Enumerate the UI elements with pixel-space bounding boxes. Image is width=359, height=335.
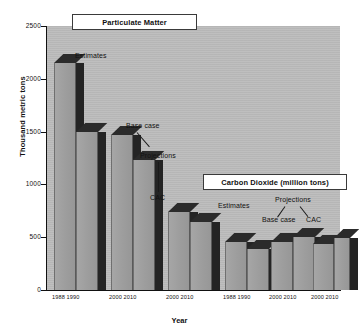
- x-tick-group-5: 2000 2010: [311, 294, 338, 300]
- annotation-cac-right: CAC: [306, 216, 321, 223]
- x-tick-group-3: 1988 1990: [223, 294, 250, 300]
- bar-co2-estimates-1990: [247, 0, 269, 290]
- y-tick-label-1000: 1000: [11, 180, 41, 187]
- annotation-projections-left: Projections: [140, 152, 176, 159]
- panel-title-carbon-dioxide: Carbon Dioxide (million tons): [203, 174, 347, 190]
- bar-co2-cac-2010: [334, 0, 350, 290]
- bar-pm-cac-2000: [168, 0, 190, 290]
- bar-pm-estimates-1990: [76, 0, 98, 290]
- bar-pm-basecase-2010: [133, 0, 155, 290]
- bar-pm-basecase-2000: [111, 0, 133, 290]
- annotation-cac-left: CAC: [150, 194, 165, 201]
- x-axis-line: [46, 290, 341, 291]
- bar-co2-estimates-1988: [225, 0, 247, 290]
- bar-pm-estimates-1988: [54, 0, 76, 290]
- y-tick-label-2500: 2500: [11, 22, 41, 29]
- y-axis-title: Thousand metric tons: [18, 57, 27, 177]
- x-tick-group-2: 2000 2010: [166, 294, 193, 300]
- x-axis-title: Year: [0, 316, 359, 325]
- bar-co2-basecase-2010: [293, 0, 315, 290]
- y-tick-label-500: 500: [11, 233, 41, 240]
- y-axis-line: [46, 26, 47, 291]
- bar-pm-cac-2010: [190, 0, 212, 290]
- leader-line-projections-left: [158, 162, 159, 192]
- bar-co2-basecase-2000: [271, 0, 293, 290]
- x-tick-group-0: 1988 1990: [52, 294, 79, 300]
- annotation-base-case-right: Base case: [262, 216, 296, 223]
- annotation-estimates-right: Estimates: [218, 202, 250, 209]
- bar-co2-cac-2000: [313, 0, 334, 290]
- x-tick-group-4: 2000 2010: [269, 294, 296, 300]
- y-tick-label-0: 0: [11, 286, 41, 293]
- x-tick-group-1: 2000 2010: [109, 294, 136, 300]
- annotation-estimates-left: Estimates: [75, 52, 107, 59]
- chart-root: 2500 2000 1500 1000 500 0 Thousand metri…: [0, 0, 359, 335]
- panel-title-particulate-matter: Particulate Matter: [72, 14, 197, 30]
- annotation-base-case-left: Base case: [126, 122, 160, 129]
- annotation-projections-right: Projections: [275, 196, 311, 203]
